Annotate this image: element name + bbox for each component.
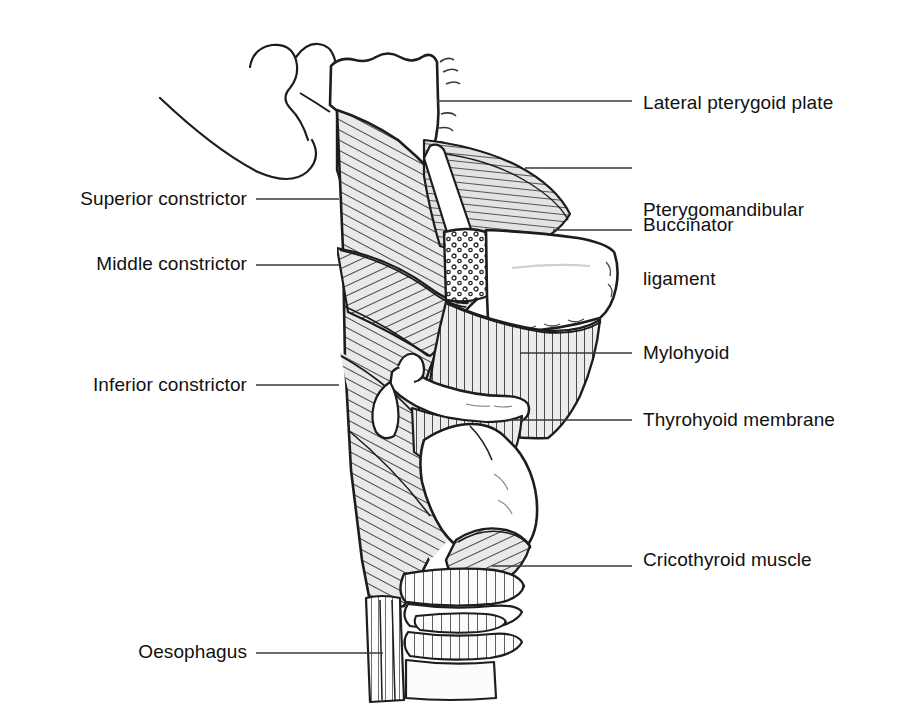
label-superior-constrictor: Superior constrictor — [80, 187, 247, 210]
label-pterygomandibular-ligament-line2: ligament — [643, 267, 804, 290]
label-inferior-constrictor: Inferior constrictor — [93, 373, 247, 396]
tracheal-rings — [404, 604, 522, 700]
anatomy-figure: Lateral pterygoid plate Pterygomandibula… — [0, 0, 906, 706]
label-cricothyroid-muscle: Cricothyroid muscle — [643, 548, 812, 571]
pterygoid-hamulus-hook — [160, 44, 336, 179]
label-buccinator: Buccinator — [643, 213, 734, 236]
label-mylohyoid: Mylohyoid — [643, 341, 729, 364]
label-pterygomandibular-ligament: Pterygomandibular ligament — [643, 152, 804, 336]
label-oesophagus: Oesophagus — [138, 640, 247, 663]
label-thyrohyoid-membrane: Thyrohyoid membrane — [643, 408, 835, 431]
label-lateral-pterygoid-plate: Lateral pterygoid plate — [643, 91, 833, 114]
cricoid-cartilage — [400, 569, 524, 606]
oesophagus-tube — [366, 596, 404, 702]
label-middle-constrictor: Middle constrictor — [96, 252, 247, 275]
